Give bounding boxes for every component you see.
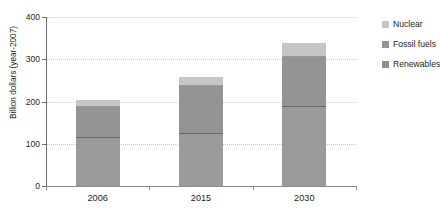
x-tick-mark [46,186,47,190]
legend-swatch-icon [382,41,389,48]
legend-item[interactable]: Fossil fuels [382,39,438,49]
legend-item[interactable]: Renewables [382,59,438,69]
bar-group[interactable] [179,17,223,186]
plot-area: 0100200300400 200620152030 [46,17,356,186]
y-tick-mark [42,102,46,103]
y-tick-mark [42,59,46,60]
y-tick-label: 100 [26,139,40,149]
legend-label: Nuclear [393,19,423,29]
x-tick-label: 2006 [87,193,107,203]
bar-segment-renewables[interactable] [179,133,223,186]
y-tick-label: 200 [26,97,40,107]
x-tick-mark [253,186,254,190]
legend-label: Fossil fuels [393,39,436,49]
legend-label: Renewables [393,59,440,69]
bar-group[interactable] [282,17,326,186]
legend-swatch-icon [382,61,389,68]
bar-segment-nuclear[interactable] [282,43,326,56]
y-axis-line [46,17,47,186]
x-tick-mark [356,186,357,190]
x-tick-label: 2015 [191,193,211,203]
y-tick-label: 400 [26,12,40,22]
bar-group[interactable] [76,17,120,186]
legend-item[interactable]: Nuclear [382,19,438,29]
chart-title: in the Reference Scenario [0,0,356,1]
chart-legend: NuclearFossil fuelsRenewables [382,19,438,79]
y-tick-mark [42,144,46,145]
bar-segment-renewables[interactable] [282,106,326,186]
bar-segment-fossil-fuels[interactable] [179,85,223,132]
bar-segment-fossil-fuels[interactable] [76,106,120,137]
legend-swatch-icon [382,21,389,28]
y-tick-mark [42,17,46,18]
y-tick-label: 0 [35,181,40,191]
x-tick-mark [149,186,150,190]
bar-segment-nuclear[interactable] [76,100,120,106]
y-tick-label: 300 [26,54,40,64]
x-axis-line [46,186,356,187]
bar-segment-renewables[interactable] [76,137,120,186]
bar-segment-fossil-fuels[interactable] [282,56,326,106]
y-axis-title: Billion dollars (year-2007) [9,0,18,148]
bar-segment-nuclear[interactable] [179,77,223,85]
x-tick-label: 2030 [294,193,314,203]
